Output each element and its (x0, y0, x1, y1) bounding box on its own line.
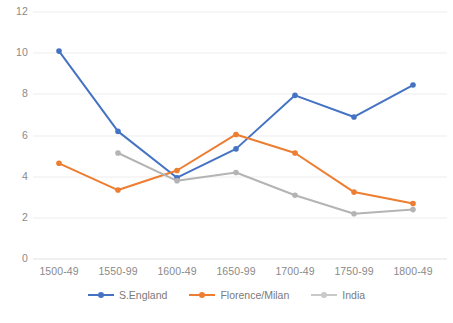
series-line (59, 51, 413, 178)
chart-legend: S.England Florence/Milan India (0, 289, 453, 301)
legend-marker-icon (189, 290, 215, 300)
data-point[interactable] (410, 201, 416, 207)
data-series-layer (56, 48, 416, 216)
data-point[interactable] (233, 170, 239, 176)
series-line (59, 134, 413, 203)
x-axis-tick-1800-49: 1800-49 (378, 265, 448, 277)
data-point[interactable] (351, 114, 357, 120)
legend-marker-icon (311, 290, 337, 300)
legend-item-florence-milan[interactable]: Florence/Milan (189, 289, 289, 301)
data-point[interactable] (56, 48, 62, 54)
data-point[interactable] (233, 146, 239, 152)
legend-item-india[interactable]: India (311, 289, 365, 301)
data-point[interactable] (174, 178, 180, 184)
y-axis-tick-8: 8 (0, 87, 28, 99)
data-point[interactable] (292, 93, 298, 99)
y-axis-tick-10: 10 (0, 46, 28, 58)
legend-label: Florence/Milan (220, 289, 289, 301)
data-point[interactable] (292, 150, 298, 156)
data-point[interactable] (410, 207, 416, 213)
legend-label: India (342, 289, 365, 301)
series-line (118, 153, 413, 214)
data-point[interactable] (233, 132, 239, 138)
series-florence-milan (56, 132, 416, 207)
data-point[interactable] (410, 82, 416, 88)
data-point[interactable] (174, 168, 180, 174)
legend-marker-icon (88, 290, 114, 300)
data-point[interactable] (115, 187, 121, 193)
y-axis-tick-0: 0 (0, 252, 28, 264)
y-axis-tick-2: 2 (0, 211, 28, 223)
series-s-england (56, 48, 416, 180)
series-india (115, 150, 416, 216)
line-chart: 12 10 8 6 4 2 0 1500-49 1550-99 1600-49 … (0, 0, 453, 323)
data-point[interactable] (115, 150, 121, 156)
legend-item-s-england[interactable]: S.England (88, 289, 167, 301)
data-point[interactable] (115, 129, 121, 135)
legend-label: S.England (119, 289, 167, 301)
y-axis-tick-4: 4 (0, 170, 28, 182)
data-point[interactable] (292, 192, 298, 198)
y-axis-tick-6: 6 (0, 129, 28, 141)
data-point[interactable] (351, 211, 357, 217)
data-point[interactable] (56, 160, 62, 166)
data-point[interactable] (351, 189, 357, 195)
y-axis-tick-12: 12 (0, 5, 28, 17)
